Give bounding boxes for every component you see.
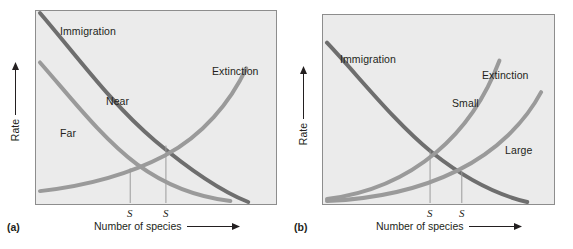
curve-extinction-small xyxy=(327,61,500,200)
panel-b-y-axis: Rate xyxy=(298,66,309,145)
panel-a: Immigration Near Far Extinction S S Rate… xyxy=(0,0,290,249)
x-axis-label: Number of species xyxy=(376,221,464,232)
label-immigration: Immigration xyxy=(60,26,116,37)
panel-b: Immigration Extinction Small Large S S R… xyxy=(290,0,573,249)
equilibrium-label-2: S xyxy=(163,208,169,219)
panel-b-x-axis: Number of species xyxy=(376,221,523,232)
equilibrium-label-1: S xyxy=(427,208,433,219)
y-axis-arrow-icon xyxy=(11,62,20,116)
panel-a-x-axis: Number of species xyxy=(94,221,241,232)
label-extinction: Extinction xyxy=(482,70,529,81)
panel-b-curves xyxy=(323,15,554,204)
y-axis-label: Rate xyxy=(10,119,21,141)
y-axis-label: Rate xyxy=(298,123,309,145)
x-axis-arrow-icon xyxy=(187,222,241,231)
panel-a-y-axis: Rate xyxy=(10,62,21,141)
equilibrium-label-2: S xyxy=(459,208,465,219)
label-curve-small: Small xyxy=(452,98,479,109)
panel-b-tag: (b) xyxy=(294,222,307,233)
curve-immigration-near xyxy=(40,13,248,202)
label-curve-large: Large xyxy=(505,145,532,156)
label-curve-far: Far xyxy=(60,128,76,139)
y-axis-arrow-icon xyxy=(299,66,308,120)
label-extinction: Extinction xyxy=(212,66,259,77)
island-biogeography-figure: Immigration Near Far Extinction S S Rate… xyxy=(0,0,573,249)
x-axis-arrow-icon xyxy=(469,222,523,231)
equilibrium-label-1: S xyxy=(127,208,133,219)
panel-a-plot-area xyxy=(35,10,277,205)
x-axis-label: Number of species xyxy=(94,221,182,232)
panel-a-tag: (a) xyxy=(7,222,20,233)
label-immigration: Immigration xyxy=(340,54,396,65)
panel-b-plot-area xyxy=(322,14,555,205)
label-curve-near: Near xyxy=(106,96,129,107)
panel-a-curves xyxy=(36,11,276,204)
